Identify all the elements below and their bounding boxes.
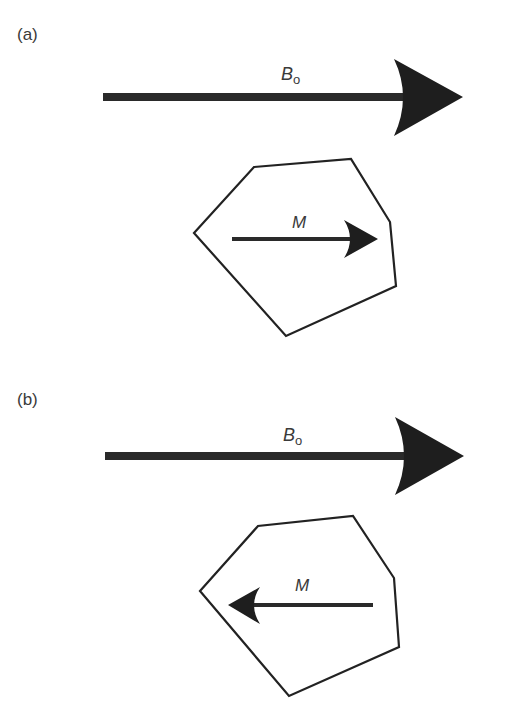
magnetization-diagram: (a) Bo M (b) Bo M: [0, 0, 509, 719]
field-arrowhead-icon: [394, 59, 463, 136]
panel-a-label: (a): [17, 25, 38, 44]
panel-b: (b) Bo M: [17, 390, 464, 696]
panel-a: (a) Bo M: [17, 25, 463, 336]
field-label-a: Bo: [281, 64, 300, 87]
panel-b-label: (b): [17, 390, 38, 409]
magnetization-label-a: M: [292, 213, 307, 232]
field-label-b: Bo: [283, 425, 302, 448]
grain-outline-a: [194, 159, 396, 336]
field-arrowhead-icon: [395, 417, 464, 495]
magnetization-label-b: M: [295, 576, 310, 595]
